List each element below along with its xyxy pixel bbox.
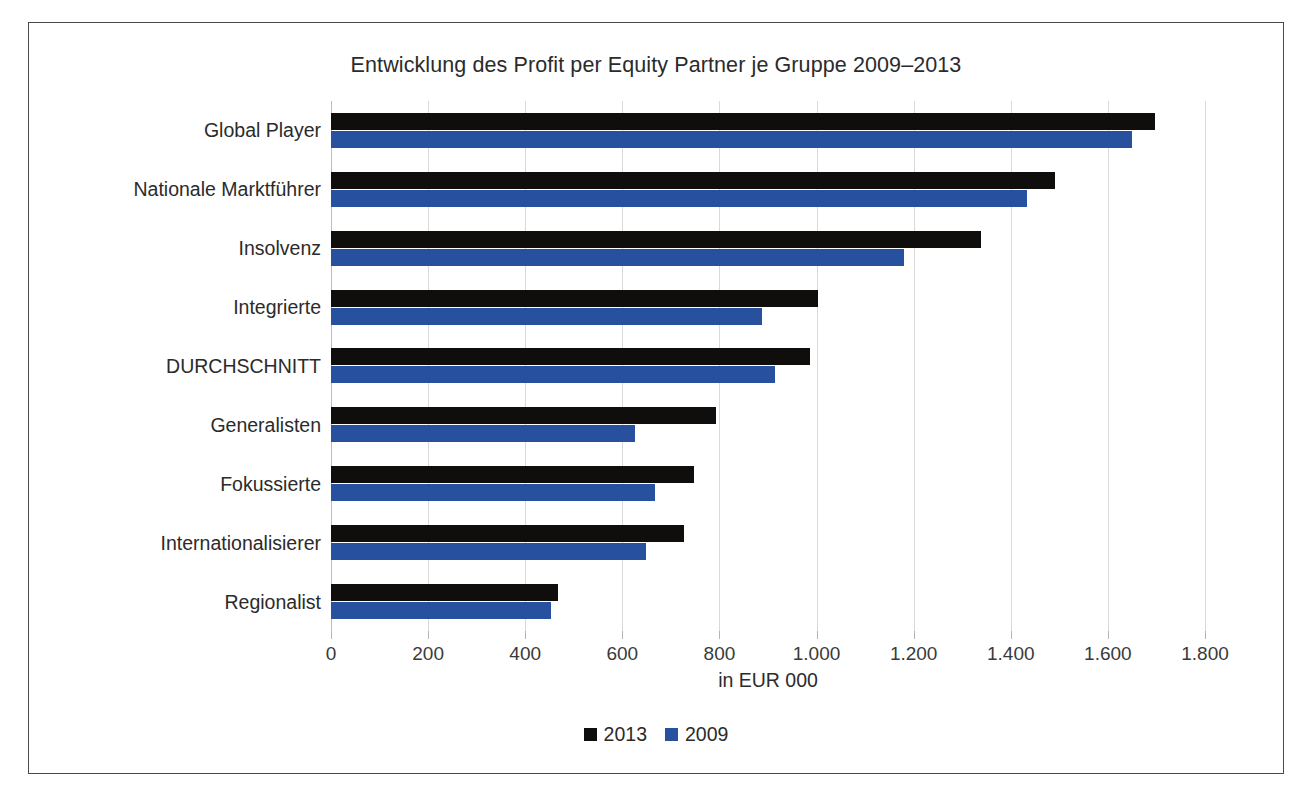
y-axis-category-label: Global Player <box>204 119 321 142</box>
chart-category-row: Global Player <box>331 101 1205 160</box>
x-axis-tick-label: 600 <box>606 643 638 665</box>
bar-2009 <box>331 249 904 266</box>
x-axis-title: in EUR 000 <box>331 669 1205 692</box>
x-axis-tick-label: 1.200 <box>890 643 938 665</box>
bar-2009 <box>331 484 655 501</box>
chart-frame: Entwicklung des Profit per Equity Partne… <box>28 22 1284 774</box>
chart-legend: 2013 2009 <box>29 723 1283 746</box>
gridline <box>1205 101 1206 631</box>
y-axis-category-label: Generalisten <box>210 413 321 436</box>
x-axis-tick-label: 1.800 <box>1181 643 1229 665</box>
bar-2009 <box>331 131 1132 148</box>
legend-item-2009: 2009 <box>665 723 728 746</box>
x-axis-tick <box>428 631 429 639</box>
y-axis-category-label: DURCHSCHNITT <box>166 354 321 377</box>
x-axis-tick-label: 1.600 <box>1084 643 1132 665</box>
chart-category-row: Insolvenz <box>331 219 1205 278</box>
chart-category-row: DURCHSCHNITT <box>331 337 1205 396</box>
legend-swatch-2013 <box>584 728 597 741</box>
plot-area: 02004006008001.0001.2001.4001.6001.800Gl… <box>331 101 1205 631</box>
y-axis-category-label: Insolvenz <box>239 237 321 260</box>
bar-2013 <box>331 525 684 542</box>
y-axis-category-label: Internationalisierer <box>161 531 321 554</box>
x-axis-tick-label: 0 <box>326 643 337 665</box>
bar-2013 <box>331 290 818 307</box>
bar-2013 <box>331 113 1155 130</box>
chart-category-row: Nationale Marktführer <box>331 160 1205 219</box>
bar-2013 <box>331 172 1055 189</box>
x-axis-tick <box>719 631 720 639</box>
x-axis-tick-label: 400 <box>509 643 541 665</box>
bar-2013 <box>331 584 558 601</box>
x-axis-tick-label: 800 <box>704 643 736 665</box>
chart-category-row: Generalisten <box>331 395 1205 454</box>
bar-2013 <box>331 348 810 365</box>
legend-item-2013: 2013 <box>584 723 647 746</box>
x-axis-tick <box>1108 631 1109 639</box>
x-axis-tick-label: 1.000 <box>793 643 841 665</box>
chart-category-row: Fokussierte <box>331 454 1205 513</box>
bar-2009 <box>331 543 646 560</box>
y-axis-category-label: Nationale Marktführer <box>134 178 322 201</box>
legend-label-2009: 2009 <box>685 723 728 746</box>
x-axis-tick <box>1205 631 1206 639</box>
x-axis-tick <box>622 631 623 639</box>
legend-label-2013: 2013 <box>604 723 647 746</box>
legend-swatch-2009 <box>665 728 678 741</box>
x-axis-tick <box>525 631 526 639</box>
chart-title: Entwicklung des Profit per Equity Partne… <box>29 53 1283 78</box>
x-axis-tick <box>914 631 915 639</box>
bar-2009 <box>331 308 762 325</box>
chart-category-row: Integrierte <box>331 278 1205 337</box>
x-axis-tick-label: 200 <box>412 643 444 665</box>
bar-2009 <box>331 366 775 383</box>
bar-2013 <box>331 231 981 248</box>
x-axis-tick-label: 1.400 <box>987 643 1035 665</box>
y-axis-category-label: Fokussierte <box>220 472 321 495</box>
y-axis-category-label: Regionalist <box>225 590 321 613</box>
bar-2013 <box>331 466 694 483</box>
chart-category-row: Internationalisierer <box>331 513 1205 572</box>
bar-2013 <box>331 407 716 424</box>
chart-category-row: Regionalist <box>331 572 1205 631</box>
y-axis-category-label: Integrierte <box>233 296 321 319</box>
x-axis-tick <box>1011 631 1012 639</box>
bar-2009 <box>331 190 1027 207</box>
bar-2009 <box>331 425 635 442</box>
x-axis-tick <box>817 631 818 639</box>
x-axis-tick <box>331 631 332 639</box>
bar-2009 <box>331 602 551 619</box>
